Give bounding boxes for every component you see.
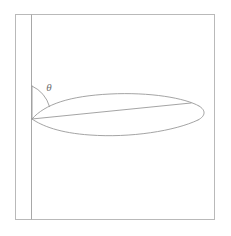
- figure-root: θ: [0, 0, 231, 236]
- airfoil-upper-surface: [32, 94, 199, 119]
- chord-line: [32, 103, 191, 119]
- airfoil-lower-surface: [32, 119, 198, 136]
- airfoil-trailing-edge-tip: [198, 106, 204, 120]
- airfoil-angle-of-attack-diagram: θ: [0, 0, 231, 236]
- figure-frame-border: [16, 15, 215, 220]
- angle-label-theta: θ: [46, 81, 52, 93]
